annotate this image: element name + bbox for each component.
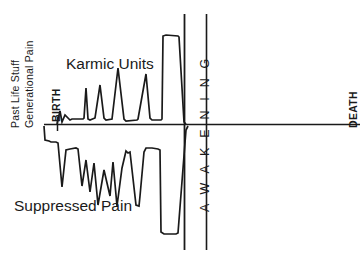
diagram-canvas — [0, 0, 360, 261]
birth-label: BIRTH — [50, 88, 62, 122]
death-label: DEATH — [347, 91, 359, 128]
karmic-units-waveform — [57, 35, 186, 124]
suppressed-pain-label: Suppressed Pain — [14, 197, 132, 215]
axis-label-generational-pain: Generational Pain — [23, 41, 35, 128]
axis-label-past-life-stuff: Past Life Stuff — [9, 60, 21, 128]
awakening-label: A W A K E N I N G — [198, 55, 212, 212]
karmic-units-label: Karmic Units — [66, 55, 154, 73]
karmic-units-diagram: Past Life Stuff Generational Pain BIRTH … — [0, 0, 360, 261]
suppressed-pain-waveform — [44, 126, 188, 234]
